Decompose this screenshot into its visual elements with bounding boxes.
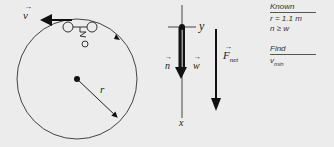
net-force-label: →Fnet: [223, 49, 238, 64]
radius-label: r: [100, 83, 104, 95]
find-item: vmin: [270, 56, 316, 69]
normal-force-label: →n: [165, 60, 170, 71]
motorcycle-icon: [63, 22, 97, 47]
find-item-subscript: min: [274, 61, 284, 67]
known-item: r = 1.1 m: [270, 14, 316, 24]
net-force-subscript: net: [230, 56, 239, 64]
known-header: Known: [270, 2, 316, 13]
known-item: n ≥ w: [270, 24, 316, 34]
known-find-panel: Known r = 1.1 m n ≥ w Find vmin: [270, 2, 316, 69]
weight-force-label-text: w: [193, 60, 200, 71]
weight-force-label: →w: [193, 60, 200, 71]
y-axis-label: y: [199, 19, 204, 34]
normal-force-arrow: [175, 27, 187, 79]
velocity-label: →v: [23, 9, 28, 21]
net-force-arrow: [211, 29, 221, 111]
normal-force-label-text: n: [165, 60, 170, 71]
radius-line: [77, 79, 117, 117]
find-header: Find: [270, 44, 316, 55]
x-axis-label: x: [179, 117, 183, 128]
